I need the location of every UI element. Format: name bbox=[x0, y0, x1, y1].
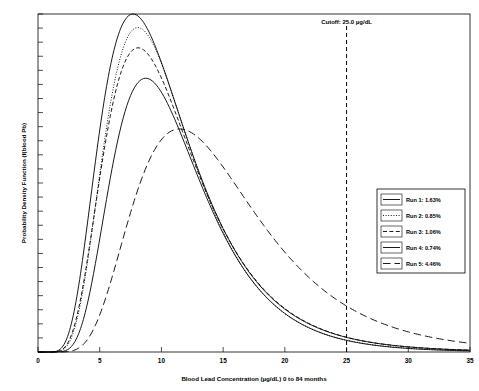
legend-item-label: Run 4: 0.74% bbox=[406, 245, 441, 251]
legend-item-label: Run 3: 1.06% bbox=[406, 229, 441, 235]
x-tick-label: 30 bbox=[405, 357, 413, 364]
x-tick-label: 35 bbox=[466, 357, 474, 364]
series-curves bbox=[38, 14, 469, 352]
y-axis-ticks bbox=[38, 14, 43, 352]
cutoff-marker: Cutoff: 25.0 µg/dL bbox=[321, 19, 372, 352]
x-tick-label: 25 bbox=[343, 357, 351, 364]
x-tick-label: 10 bbox=[158, 357, 166, 364]
x-tick-label: 20 bbox=[281, 357, 289, 364]
legend: Run 1: 1.63%Run 2: 0.85%Run 3: 1.06%Run … bbox=[377, 189, 465, 273]
legend-item-label: Run 2: 0.85% bbox=[406, 213, 441, 219]
cutoff-label: Cutoff: 25.0 µg/dL bbox=[321, 19, 372, 25]
x-tick-label: 15 bbox=[220, 357, 228, 364]
plot-frame bbox=[38, 14, 470, 352]
chart-container: 05101520253035 Cutoff: 25.0 µg/dL Blood … bbox=[0, 0, 479, 391]
x-axis-label: Blood Lead Concentration (µg/dL) 0 to 84… bbox=[181, 375, 327, 382]
density-plot: 05101520253035 Cutoff: 25.0 µg/dL Blood … bbox=[0, 0, 479, 391]
x-axis-tick-labels: 05101520253035 bbox=[36, 357, 474, 364]
legend-item-label: Run 1: 1.63% bbox=[406, 197, 441, 203]
legend-item-label: Run 5: 4.46% bbox=[406, 261, 441, 267]
x-tick-label: 5 bbox=[98, 357, 102, 364]
y-axis-label: Probability Density Function (f(blood Pb… bbox=[20, 123, 27, 243]
curve-run-1 bbox=[38, 14, 469, 352]
x-axis-ticks bbox=[38, 347, 470, 352]
x-tick-label: 0 bbox=[36, 357, 40, 364]
